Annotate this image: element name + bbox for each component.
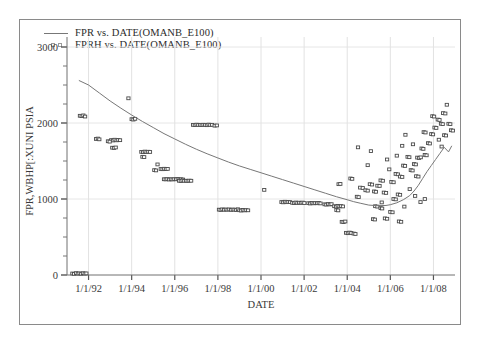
plot-area: 0100020003000 1/1/921/1/941/1/961/1/981/…	[19, 19, 461, 325]
svg-text:1/1/92: 1/1/92	[75, 283, 102, 294]
svg-text:2000: 2000	[37, 118, 58, 129]
svg-text:1/1/06: 1/1/06	[377, 283, 404, 294]
svg-text:1000: 1000	[37, 194, 58, 205]
svg-text:1/1/94: 1/1/94	[118, 283, 146, 294]
plot-svg: 0100020003000 1/1/921/1/941/1/961/1/981/…	[19, 19, 461, 325]
svg-text:1/1/96: 1/1/96	[161, 283, 188, 294]
svg-text:1/1/04: 1/1/04	[334, 283, 362, 294]
scatter-series-fprh	[71, 97, 455, 275]
svg-text:1/1/08: 1/1/08	[420, 283, 447, 294]
svg-text:1/1/00: 1/1/00	[248, 283, 275, 294]
svg-text:3000: 3000	[37, 42, 58, 53]
x-axis-ticks: 1/1/921/1/941/1/961/1/981/1/001/1/021/1/…	[75, 275, 447, 294]
svg-text:0: 0	[53, 270, 58, 281]
chart-window: FPR vs. DATE(OMANB_E100) FPRH vs. DATE(O…	[0, 0, 486, 350]
y-axis-ticks: 0100020003000	[37, 42, 67, 281]
y-axis-title: FPR,WBHP[:XUNI PSIA	[24, 106, 35, 216]
svg-text:1/1/02: 1/1/02	[291, 283, 318, 294]
x-axis-title: DATE	[248, 299, 275, 310]
line-series-fpr	[79, 80, 452, 205]
svg-text:1/1/98: 1/1/98	[204, 283, 231, 294]
